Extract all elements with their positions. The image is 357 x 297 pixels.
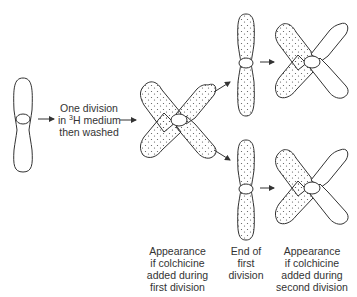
step-label: One division in 3H medium then washed [58, 102, 120, 138]
chromatid-end-first-bottom [238, 140, 255, 240]
chromatid-end-first-top [238, 14, 255, 116]
step-label-line3: then washed [58, 126, 120, 138]
diagram-canvas: One division in 3H medium then washed Ap… [0, 0, 357, 297]
caption-first-division: Appearance if colchicine added during fi… [140, 245, 215, 293]
caption-second-division: Appearance if colchicine added during se… [270, 245, 354, 293]
arrow-down [214, 150, 230, 160]
arrow-up [214, 82, 230, 92]
step-label-line1: One division [58, 102, 120, 114]
step-label-line2: in 3H medium [58, 114, 120, 126]
x-chromosome-second-division-bottom [275, 149, 348, 224]
unlabeled-chromosome [14, 78, 33, 172]
caption-end-first: End of first division [222, 245, 270, 281]
x-chromosome-first-division [140, 82, 216, 158]
x-chromosome-second-division-top [275, 23, 348, 98]
